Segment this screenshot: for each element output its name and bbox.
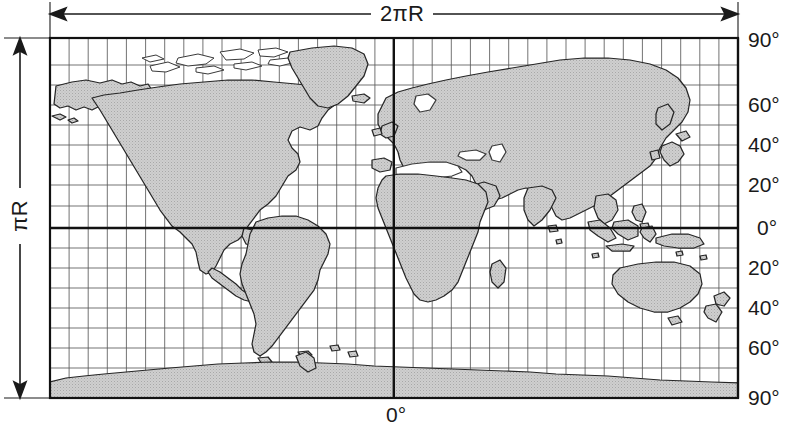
lat-label-90-north: 90° (748, 29, 780, 50)
arrowhead-right (722, 8, 738, 20)
arrowhead-up (14, 38, 26, 54)
world-map-figure: 90° 60° 40° 20° 0° 20° 40° 60° 90° 2πR π… (0, 0, 785, 434)
lat-label-60-south: 60° (748, 337, 780, 358)
horizontal-extent-label: 2πR (371, 3, 433, 25)
arrowhead-down (14, 382, 26, 398)
arrowhead-left (50, 8, 66, 20)
lat-label-90-south: 90° (748, 387, 780, 408)
vertical-extent-label: πR (7, 188, 33, 244)
land-scotia-speck-b (348, 351, 358, 357)
lat-label-20-south: 20° (748, 257, 780, 278)
land-korea (650, 150, 660, 160)
map-svg (0, 0, 785, 434)
lat-label-40-south: 40° (748, 297, 780, 318)
lat-label-60-north: 60° (748, 94, 780, 115)
lat-label-20-north: 20° (748, 174, 780, 195)
longitude-label-prime-meridian: 0° (386, 404, 406, 425)
land-scotia-speck-a (330, 345, 340, 351)
lat-label-equator: 0° (757, 217, 777, 238)
land-island-speck-b (676, 251, 683, 256)
land-ireland (372, 128, 382, 136)
land-java (606, 244, 634, 251)
lat-label-40-north: 40° (748, 134, 780, 155)
land-island-speck-d (556, 239, 562, 244)
land-iberia (372, 158, 392, 172)
land-island-speck-c (700, 255, 707, 260)
map-body (50, 38, 738, 398)
land-island-speck-a (592, 253, 599, 258)
